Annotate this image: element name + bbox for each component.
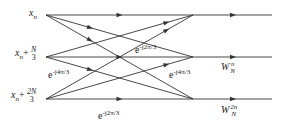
input-label-1: xn+ N3 bbox=[15, 46, 36, 62]
butterfly-graph bbox=[0, 0, 289, 127]
input-label-0: xn bbox=[29, 8, 37, 21]
twiddle-label-2: e-j4π/3 bbox=[169, 70, 190, 80]
weight-1-base: W bbox=[221, 61, 229, 72]
edge-arrow-1-to-2 bbox=[87, 67, 93, 71]
output-arrow-0 bbox=[230, 13, 236, 17]
output-arrow-2 bbox=[230, 97, 236, 101]
edge-arrow-0-to-0 bbox=[117, 13, 123, 17]
twiddle-label-1: e-j4π/3 bbox=[48, 70, 69, 80]
output-weight-2: W2nN bbox=[221, 104, 237, 118]
edge-arrow-2-to-2 bbox=[117, 97, 123, 101]
input-2-fraction: 2N3 bbox=[27, 88, 36, 104]
twiddle-label-3: e-j2π/3 bbox=[98, 111, 119, 121]
input-1-plus: + bbox=[23, 47, 29, 58]
input-2-den: 3 bbox=[27, 96, 36, 104]
edge-arrow-2-to-0 bbox=[163, 29, 169, 34]
weight-2-sub: N bbox=[230, 111, 237, 118]
edge-arrow-2-to-1 bbox=[163, 63, 169, 67]
twiddle-label-0: e-j2π/3 bbox=[135, 45, 156, 55]
edge-arrow-0-to-1 bbox=[87, 25, 93, 29]
input-1-den: 3 bbox=[31, 54, 36, 62]
weight-1-sub: N bbox=[230, 68, 235, 75]
input-1-fraction: N3 bbox=[31, 46, 36, 62]
input-0-sub: n bbox=[33, 13, 37, 21]
twiddle-1-exp: -j4π/3 bbox=[52, 68, 69, 76]
twiddle-2-exp: -j4π/3 bbox=[173, 68, 190, 76]
weight-1-indices: nN bbox=[230, 61, 235, 75]
output-weight-1: WnN bbox=[221, 61, 235, 75]
weight-2-base: W bbox=[221, 104, 229, 115]
edge-arrow-0-to-2 bbox=[86, 37, 92, 42]
output-arrow-1 bbox=[230, 55, 236, 59]
input-label-2: xn+ 2N3 bbox=[11, 88, 36, 104]
twiddle-0-exp: -j2π/3 bbox=[139, 43, 156, 51]
edge-arrow-1-to-0 bbox=[163, 21, 169, 25]
twiddle-3-exp: -j2π/3 bbox=[102, 109, 119, 117]
input-2-plus: + bbox=[19, 89, 25, 100]
weight-2-indices: 2nN bbox=[230, 104, 237, 118]
